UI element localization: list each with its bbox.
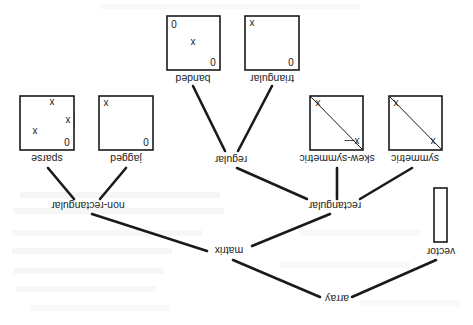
banded-matrix-shape: 0 x 0 [167, 16, 220, 70]
label-rectangular: rectangular [308, 200, 361, 212]
negative-x-mark: x— [345, 136, 360, 147]
x-mark: x [33, 126, 38, 137]
label-symmetric: symmetric [391, 153, 439, 165]
label-banded: banded [175, 73, 210, 85]
x-mark: x [250, 18, 255, 29]
x-mark: x [394, 98, 399, 109]
label-non-rectangular: non-rectangular [51, 200, 125, 212]
label-sparse: sparse [31, 153, 63, 165]
x-mark: x [104, 98, 109, 109]
zero-mark: 0 [288, 56, 294, 67]
zero-mark: 0 [64, 136, 70, 147]
x-mark: x [191, 37, 196, 48]
edge-rectangular-symmetric [360, 168, 412, 199]
x-mark: x [50, 97, 55, 108]
array-taxonomy-diagram: x x x x— 0 x 0 x 0 x 0 [0, 0, 473, 325]
zero-mark: 0 [210, 56, 216, 67]
symmetric-matrix-shape: x x [389, 96, 442, 150]
edge-regular-triangular [238, 86, 272, 151]
triangular-matrix-shape: x 0 [245, 16, 299, 70]
label-triangular: triangular [250, 73, 294, 85]
x-mark: x [316, 98, 321, 109]
zero-mark: 0 [143, 136, 149, 147]
label-matrix: matrix [214, 245, 243, 257]
edge-rectangular-regular [237, 168, 307, 199]
label-jagged: jagged [110, 153, 143, 165]
x-mark: x [431, 136, 436, 147]
label-skew-symmetric: skew-symmetric [299, 153, 374, 165]
zero-mark: 0 [171, 18, 177, 29]
sparse-matrix-shape: x x x 0 [20, 96, 74, 150]
label-vector: vector [426, 246, 455, 258]
label-regular: regular [214, 154, 247, 166]
skew-symmetric-matrix-shape: x x— [310, 96, 363, 150]
vector-shape [434, 188, 447, 242]
label-array: array [324, 293, 349, 305]
jagged-matrix-shape: x 0 [99, 96, 153, 150]
edge-regular-banded [193, 86, 225, 151]
x-mark: x [66, 115, 71, 126]
